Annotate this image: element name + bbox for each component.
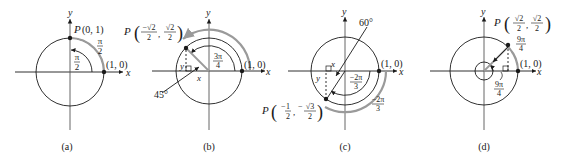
point-P-label: P	[261, 104, 269, 116]
unit-point-label: (1, 0)	[520, 58, 542, 70]
p-y-numerator: √3	[306, 102, 314, 111]
p-y-denominator: 2	[308, 112, 312, 121]
right-angle-mark	[186, 66, 191, 71]
p-x-numerator: 1	[286, 102, 290, 111]
point-P	[506, 43, 510, 47]
leg-x-label: x	[196, 73, 201, 83]
panel-c: y x 60° (1, 0) x y −2π 3 −2π 3 P ( − 1 2…	[261, 6, 404, 153]
outer-arc-denominator: 4	[519, 44, 523, 53]
unit-point-label: (1, 0)	[106, 59, 128, 71]
p-y-denominator: 2	[168, 33, 172, 42]
outer-arc	[508, 47, 518, 71]
p-y-denominator: 2	[535, 24, 539, 33]
leg-y-label: y	[315, 73, 320, 83]
point-1-0	[377, 69, 381, 73]
leader-line	[500, 72, 502, 80]
paren-open: (	[504, 14, 510, 35]
outer-arc-numerator: 9π	[517, 35, 525, 44]
point-1-0	[516, 69, 520, 73]
point-P-label: P	[123, 25, 131, 37]
paren-close: )	[545, 14, 551, 35]
point-P-label: P	[73, 23, 81, 35]
p-x-denominator: 2	[286, 112, 290, 121]
inner-arc-denominator: 3	[354, 82, 358, 91]
inner-arc-numerator: π	[75, 52, 80, 62]
inner-arc-denominator: 4	[497, 89, 501, 98]
comma: ,	[293, 107, 295, 117]
outer-arc-denominator: 3	[376, 104, 380, 113]
panel-d: y x (1, 0) P ( √2 2 , √2 2 ) 9π 4 9π 4 (…	[430, 6, 551, 153]
unit-circle-figure: y x P (0, 1) (1, 0) π 2 π 2 (a) y x P ( …	[0, 0, 568, 160]
caption-d: (d)	[478, 141, 490, 153]
paren-close: )	[177, 23, 183, 44]
y-axis-label: y	[67, 7, 73, 18]
inner-arc-numerator: 9π	[495, 80, 503, 89]
caption-a: (a)	[61, 141, 72, 153]
leg-x-label: x	[330, 59, 335, 69]
p-x-denominator: 2	[147, 33, 151, 42]
point-P	[324, 97, 328, 101]
outer-arc-numerator: π	[98, 36, 103, 46]
panel-a: y x P (0, 1) (1, 0) π 2 π 2 (a)	[15, 7, 131, 153]
unit-point-label: (1, 0)	[381, 58, 403, 70]
paren-open: (	[134, 23, 140, 44]
inner-arc-denominator: 4	[216, 61, 220, 70]
ref-angle-line	[336, 27, 367, 76]
ref-angle-label: 45°	[154, 89, 168, 100]
point-P-label: P	[493, 16, 501, 28]
panel-b: y x P ( −√2 2 , √2 2 ) (1, 0) 3π 4 y x 4…	[123, 7, 271, 153]
point-P	[68, 36, 72, 40]
p-y-numerator: √2	[166, 23, 174, 32]
outer-arc-denominator: 2	[98, 46, 103, 56]
p-y-numerator: √2	[533, 14, 541, 23]
y-axis-label: y	[341, 6, 347, 17]
p-x-numerator: √2	[515, 14, 523, 23]
point-P	[184, 46, 188, 50]
point-P-coords: (0, 1)	[82, 24, 104, 36]
p-x-denominator: 2	[517, 24, 521, 33]
y-axis-label: y	[480, 6, 486, 17]
caption-b: (b)	[203, 141, 215, 153]
right-angle-mark	[503, 66, 508, 71]
unit-point-label: (1, 0)	[244, 59, 266, 71]
comma: ,	[526, 20, 528, 30]
terminal-ray	[326, 71, 345, 100]
x-axis-label: x	[265, 66, 271, 77]
p-x-numerator: −√2	[143, 23, 156, 32]
leg-y-label: y	[179, 61, 184, 71]
caption-c: (c)	[339, 141, 350, 153]
paren-close: )	[317, 102, 323, 123]
terminal-ray-arrow	[493, 47, 508, 62]
inner-arc-numerator: 3π	[214, 52, 222, 61]
inner-arc-denominator: 2	[75, 62, 80, 72]
point-1-0	[102, 70, 106, 74]
inner-arc-numerator: −2π	[350, 73, 363, 82]
paren-open: (	[271, 102, 277, 123]
outer-arc-numerator: −2π	[372, 95, 385, 104]
minus-sign: −	[298, 102, 303, 111]
y-axis-label: y	[205, 7, 211, 18]
ref-angle-label: 60°	[359, 17, 373, 28]
comma: ,	[158, 29, 160, 39]
